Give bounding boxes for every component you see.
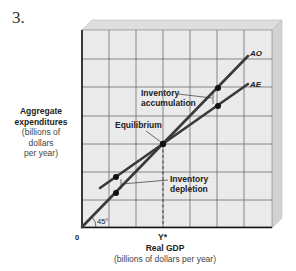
inventory-accumulation-label-1: Inventory [141, 88, 180, 98]
y-units-line2: dollars [2, 138, 80, 149]
inventory-depletion-label-2: depletion [170, 184, 208, 194]
ae-label: AE [249, 80, 262, 89]
y-axis-title: Aggregate expenditures (billions of doll… [2, 106, 80, 159]
y-title-line1: Aggregate [2, 106, 80, 117]
x-units: (billions of dollars per year) [110, 254, 220, 265]
inventory-depletion-label-1: Inventory [170, 174, 209, 184]
equilibrium-label: Equilibrium [115, 120, 162, 130]
inventory-accumulation-label-2: accumulation [141, 98, 196, 108]
angle-label: 45° [97, 217, 108, 226]
y-title-line2: expenditures [2, 117, 80, 128]
ao-point-left [113, 190, 119, 196]
ao-point-right [215, 85, 221, 91]
y-units-line1: (billions of [2, 127, 80, 138]
y-units-line3: per year) [2, 148, 80, 159]
panel-top-face [82, 20, 282, 30]
panel-side-face [272, 20, 282, 228]
ystar-label: Y* [158, 232, 168, 242]
x-axis-title: Real GDP (billions of dollars per year) [110, 243, 220, 265]
ao-label: AO [249, 49, 263, 58]
origin-label: 0 [75, 233, 79, 242]
ae-point-right [215, 103, 221, 109]
x-title: Real GDP [110, 243, 220, 254]
ae-point-left [113, 174, 119, 180]
